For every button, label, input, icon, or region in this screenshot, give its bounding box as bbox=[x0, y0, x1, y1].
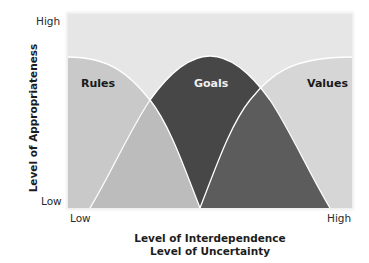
x-axis-title: Level of Interdependence Level of Uncert… bbox=[134, 232, 285, 258]
x-tick-high: High bbox=[327, 212, 351, 224]
values-label: Values bbox=[307, 77, 348, 90]
plot-area bbox=[0, 0, 369, 263]
coordination-mechanisms-diagram: High Low Low High Level of Appropriatene… bbox=[0, 0, 369, 263]
y-tick-high: High bbox=[36, 15, 60, 27]
y-tick-low: Low bbox=[41, 195, 62, 207]
x-tick-low: Low bbox=[70, 212, 91, 224]
y-axis-title: Level of Appropriateness bbox=[27, 44, 39, 193]
x-axis-title-line2: Level of Uncertainty bbox=[134, 245, 285, 258]
x-axis-title-line1: Level of Interdependence bbox=[134, 232, 285, 245]
rules-label: Rules bbox=[81, 77, 115, 90]
goals-label: Goals bbox=[194, 77, 228, 90]
